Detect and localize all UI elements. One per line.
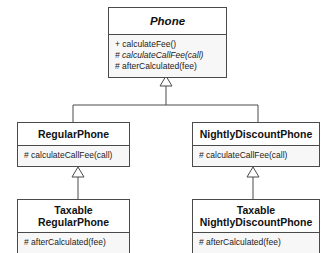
visibility-marker: +: [115, 39, 120, 49]
operation-after-calculated: # afterCalculated(fee): [199, 237, 313, 248]
class-name-phone: Phone: [109, 8, 226, 35]
uml-class-diagram: Phone + calculateFee() # calculateCallFe…: [0, 0, 333, 253]
operations-compartment-regular-phone: # calculateCallFee(call): [18, 146, 129, 166]
generalization-to-phone: [73, 76, 258, 122]
operation-signature: calculateCallFee(call): [31, 150, 112, 160]
visibility-marker: #: [24, 237, 29, 247]
class-box-regular-phone[interactable]: RegularPhone # calculateCallFee(call): [17, 122, 130, 167]
hollow-triangle-arrowhead-nightly-discount-phone: [247, 167, 259, 177]
visibility-marker: #: [115, 50, 120, 60]
operation-signature: calculateFee(): [122, 39, 176, 49]
class-name-nightly-discount-phone: NightlyDiscountPhone: [193, 123, 319, 146]
operation-after-calculated: # afterCalculated(fee): [115, 61, 220, 72]
operation-calculate-fee: + calculateFee(): [115, 39, 220, 50]
operation-calculate-call-fee: # calculateCallFee(call): [115, 50, 220, 61]
class-name-taxable-regular-phone: Taxable RegularPhone: [18, 200, 129, 233]
operation-signature: afterCalculated(fee): [206, 237, 281, 247]
operations-compartment-taxable-regular-phone: # afterCalculated(fee): [18, 233, 129, 253]
operations-compartment-phone: + calculateFee() # calculateCallFee(call…: [109, 35, 226, 77]
class-box-phone[interactable]: Phone + calculateFee() # calculateCallFe…: [108, 7, 227, 78]
operation-signature: calculateCallFee(call): [206, 150, 287, 160]
operation-signature: afterCalculated(fee): [122, 61, 197, 71]
operation-calculate-call-fee: # calculateCallFee(call): [24, 150, 123, 161]
operation-calculate-call-fee: # calculateCallFee(call): [199, 150, 313, 161]
class-box-nightly-discount-phone[interactable]: NightlyDiscountPhone # calculateCallFee(…: [192, 122, 320, 167]
generalization-to-nightly-discount-phone: [247, 167, 259, 199]
class-name-line-1: Taxable: [195, 204, 317, 216]
class-box-taxable-regular-phone[interactable]: Taxable RegularPhone # afterCalculated(f…: [17, 199, 130, 253]
operations-compartment-nightly-discount-phone: # calculateCallFee(call): [193, 146, 319, 166]
visibility-marker: #: [115, 61, 120, 71]
visibility-marker: #: [199, 237, 204, 247]
class-name-regular-phone: RegularPhone: [18, 123, 129, 146]
class-name-line-2: RegularPhone: [20, 216, 127, 228]
visibility-marker: #: [24, 150, 29, 160]
hollow-triangle-arrowhead-regular-phone: [72, 167, 84, 177]
operations-compartment-taxable-nightly-discount-phone: # afterCalculated(fee): [193, 233, 319, 253]
class-name-taxable-nightly-discount-phone: Taxable NightlyDiscountPhone: [193, 200, 319, 233]
operation-signature: afterCalculated(fee): [31, 237, 106, 247]
class-box-taxable-nightly-discount-phone[interactable]: Taxable NightlyDiscountPhone # afterCalc…: [192, 199, 320, 253]
visibility-marker: #: [199, 150, 204, 160]
class-name-line-1: Taxable: [20, 204, 127, 216]
class-name-line-2: NightlyDiscountPhone: [195, 216, 317, 228]
operation-signature: calculateCallFee(call): [122, 50, 203, 60]
generalization-to-regular-phone: [72, 167, 84, 199]
operation-after-calculated: # afterCalculated(fee): [24, 237, 123, 248]
